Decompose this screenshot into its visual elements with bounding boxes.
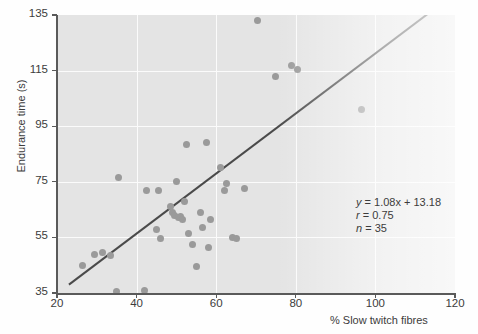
y-axis-line xyxy=(56,15,58,294)
data-point xyxy=(241,185,248,192)
x-axis-tick-label: 40 xyxy=(117,297,157,309)
x-axis-tick-label: 80 xyxy=(276,297,316,309)
y-axis-tick-label: 35 xyxy=(22,285,48,297)
n-value: = 35 xyxy=(365,222,387,234)
regression-equation: y = 1.08x + 13.18 xyxy=(356,196,441,209)
correlation-coefficient: r = 0.75 xyxy=(356,209,441,222)
y-axis-tick xyxy=(52,126,57,127)
equation-body: = 1.08x + 13.18 xyxy=(365,196,441,208)
plot-area xyxy=(57,15,455,293)
y-axis-tick xyxy=(52,237,57,238)
data-point xyxy=(155,187,162,194)
data-point xyxy=(179,216,186,223)
data-point xyxy=(207,216,214,223)
y-axis-tick xyxy=(52,14,57,15)
r-variable: r xyxy=(356,209,360,221)
data-point xyxy=(197,209,204,216)
data-point xyxy=(223,180,230,187)
data-point xyxy=(183,141,190,148)
data-point xyxy=(185,230,192,237)
data-point xyxy=(294,66,301,73)
data-point xyxy=(91,251,98,258)
r-value: = 0.75 xyxy=(363,209,394,221)
scatter-plot-figure: 3555759511513520406080100120 Endurance t… xyxy=(0,0,478,334)
x-axis-tick-label: 20 xyxy=(37,297,77,309)
statistics-annotation: y = 1.08x + 13.18 r = 0.75 n = 35 xyxy=(356,196,441,235)
data-point xyxy=(189,241,196,248)
y-axis-tick-label: 55 xyxy=(22,229,48,241)
y-axis-tick-label: 135 xyxy=(22,7,48,19)
y-axis-title: Endurance time (s) xyxy=(15,61,27,191)
data-point xyxy=(153,226,160,233)
n-variable: n xyxy=(356,222,362,234)
data-point xyxy=(193,263,200,270)
y-axis-tick xyxy=(52,181,57,182)
x-axis-tick-label: 60 xyxy=(196,297,236,309)
data-point xyxy=(199,224,206,231)
data-point xyxy=(181,198,188,205)
x-axis-tick-label: 100 xyxy=(355,297,395,309)
data-point xyxy=(205,244,212,251)
regression-line xyxy=(57,15,455,293)
y-axis-tick xyxy=(52,70,57,71)
data-point xyxy=(233,235,240,242)
x-axis-line xyxy=(56,293,456,295)
equation-variable: y xyxy=(356,196,362,208)
sample-size: n = 35 xyxy=(356,222,441,235)
data-point xyxy=(143,187,150,194)
x-axis-tick-label: 120 xyxy=(435,297,475,309)
data-point xyxy=(358,106,365,113)
x-axis-title: % Slow twitch fibres xyxy=(330,314,428,326)
data-point xyxy=(221,187,228,194)
